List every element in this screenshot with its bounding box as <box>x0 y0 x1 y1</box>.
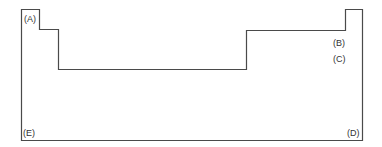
label-a: (A) <box>24 14 36 24</box>
periodic-table-outline-diagram: (A) (B) (C) (D) (E) <box>0 0 382 147</box>
label-b: (B) <box>333 38 345 48</box>
label-d: (D) <box>347 128 360 138</box>
table-outline <box>22 10 363 141</box>
label-c: (C) <box>333 54 346 64</box>
label-e: (E) <box>23 128 35 138</box>
